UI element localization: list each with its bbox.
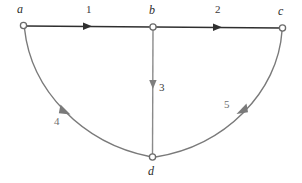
arrowhead-b-to-c	[213, 24, 222, 32]
arrowhead-a-to-b	[83, 23, 92, 31]
arrowhead-b-to-d	[149, 80, 156, 89]
edge-c-to-d	[156, 31, 283, 157]
edge-label-5: 5	[224, 99, 230, 110]
edge-label-3: 3	[159, 82, 165, 93]
edge-label-1: 1	[86, 4, 92, 15]
edge-label-2: 2	[215, 4, 221, 15]
edge-b-to-d	[153, 30, 154, 155]
node-label-d: d	[148, 165, 154, 177]
node-label-a: a	[17, 3, 23, 15]
node-c[interactable]	[279, 25, 285, 31]
graph-figure: a b c d 1 2 3 4 5	[0, 0, 302, 183]
edge-label-4: 4	[54, 116, 60, 127]
graph-canvas	[0, 0, 302, 183]
arrowhead-a-to-d	[59, 105, 71, 115]
node-label-b: b	[149, 4, 155, 16]
arrowhead-c-to-d	[237, 104, 249, 115]
node-d[interactable]	[149, 154, 155, 160]
edge-a-to-d	[25, 29, 150, 157]
node-a[interactable]	[20, 22, 26, 28]
node-label-c: c	[278, 5, 283, 17]
node-b[interactable]	[150, 24, 156, 30]
